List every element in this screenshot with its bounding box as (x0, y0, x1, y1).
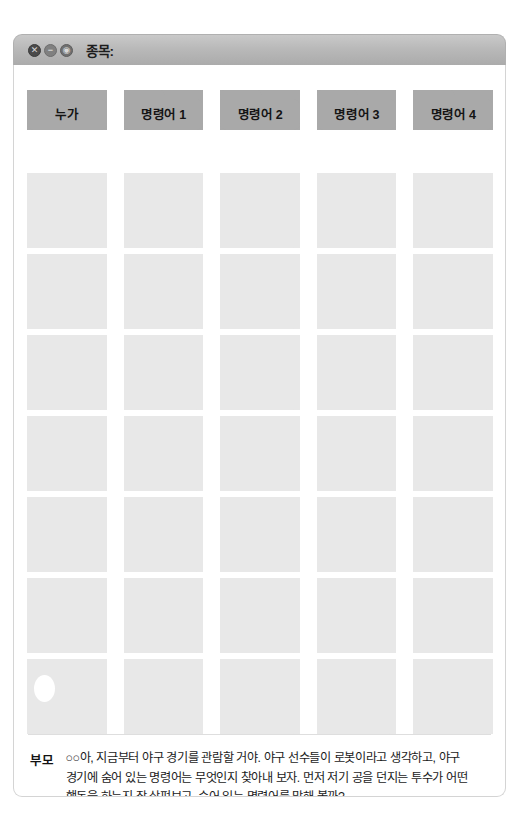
caption-speaker-label: 부모 (30, 749, 54, 769)
folder-grid-row (27, 497, 493, 572)
folder-cell[interactable] (413, 659, 493, 734)
folder-cell[interactable] (413, 335, 493, 410)
folder-body-shape (413, 346, 493, 410)
folder-cell[interactable] (413, 416, 493, 491)
folder-cell[interactable] (413, 497, 493, 572)
folder-grid-row (27, 578, 493, 653)
folder-cell[interactable] (413, 578, 493, 653)
folder-body-shape (317, 427, 397, 491)
folder-body-shape (413, 265, 493, 329)
folder-body-shape (124, 265, 204, 329)
folder-cell[interactable] (27, 416, 107, 491)
column-header-label: 누가 (27, 104, 107, 123)
folder-cell[interactable] (220, 416, 300, 491)
folder-cell[interactable] (317, 659, 397, 734)
column-header-label: 명령어 3 (317, 104, 397, 123)
folder-body-shape (124, 670, 204, 734)
folder-cell[interactable] (27, 173, 107, 248)
folder-body-shape (220, 346, 300, 410)
folder-grid-row (27, 659, 493, 734)
folder-cell[interactable] (27, 335, 107, 410)
folder-body-shape (317, 589, 397, 653)
folder-cell[interactable] (124, 416, 204, 491)
folder-cell[interactable] (124, 173, 204, 248)
column-header-command-1[interactable]: 명령어 1 (124, 90, 204, 130)
folder-cell[interactable] (220, 578, 300, 653)
folder-body-shape (317, 346, 397, 410)
folder-grid-row (27, 416, 493, 491)
caption-block: 부모 ○○아, 지금부터 야구 경기를 관람할 거야. 야구 선수들이 로봇이라… (30, 749, 491, 797)
folder-cell[interactable] (413, 254, 493, 329)
column-header-command-3[interactable]: 명령어 3 (317, 90, 397, 130)
folder-body-shape (27, 508, 107, 572)
folder-cell[interactable] (27, 254, 107, 329)
folder-cell[interactable] (124, 497, 204, 572)
folder-cell[interactable] (124, 659, 204, 734)
folder-body-shape (413, 508, 493, 572)
folder-body-shape (220, 508, 300, 572)
folder-body-shape (27, 346, 107, 410)
folder-cell[interactable] (317, 335, 397, 410)
folder-cell[interactable] (220, 497, 300, 572)
folder-body-shape (124, 346, 204, 410)
folder-body-shape (220, 184, 300, 248)
folder-cell[interactable] (124, 578, 204, 653)
folder-body-shape (220, 427, 300, 491)
maximize-icon[interactable]: ◉ (60, 44, 73, 57)
folder-cell[interactable] (27, 578, 107, 653)
window-title: 종목: (86, 40, 114, 60)
app-window: ✕ − ◉ 종목: 누가 명령어 1 (13, 34, 506, 797)
folder-body-shape (413, 670, 493, 734)
folder-body-shape (220, 670, 300, 734)
folder-cell[interactable] (27, 659, 107, 734)
folder-body-shape (413, 184, 493, 248)
folder-grid-row (27, 335, 493, 410)
folder-body-shape (124, 508, 204, 572)
folder-body-shape (317, 265, 397, 329)
folder-cell[interactable] (124, 254, 204, 329)
folder-grid-row (27, 254, 493, 329)
folder-body-shape (124, 589, 204, 653)
folder-cell[interactable] (220, 173, 300, 248)
folder-body-shape (27, 427, 107, 491)
folder-cell[interactable] (220, 659, 300, 734)
folder-cell[interactable] (317, 578, 397, 653)
folder-body-shape (220, 265, 300, 329)
folder-body-shape (27, 589, 107, 653)
folder-body-shape (124, 184, 204, 248)
folder-grid-row (27, 173, 493, 248)
folder-body-shape (317, 184, 397, 248)
column-header-label: 명령어 2 (220, 104, 300, 123)
screenshot-root: ✕ − ◉ 종목: 누가 명령어 1 (0, 0, 519, 822)
folder-cell[interactable] (317, 173, 397, 248)
folder-body-shape (220, 589, 300, 653)
column-header-command-2[interactable]: 명령어 2 (220, 90, 300, 130)
folder-cell[interactable] (27, 497, 107, 572)
folder-body-shape (413, 427, 493, 491)
folder-cell[interactable] (317, 497, 397, 572)
folder-cell[interactable] (220, 335, 300, 410)
column-header-label: 명령어 1 (124, 104, 204, 123)
minimize-icon[interactable]: − (44, 44, 57, 57)
folder-body-shape (317, 670, 397, 734)
folder-body-shape (317, 508, 397, 572)
column-header-command-4[interactable]: 명령어 4 (413, 90, 493, 130)
column-header-row: 누가 명령어 1 명령어 2 명령어 3 (27, 90, 493, 130)
folder-cell[interactable] (317, 254, 397, 329)
folder-body-shape (27, 184, 107, 248)
caption-body-text: ○○아, 지금부터 야구 경기를 관람할 거야. 야구 선수들이 로봇이라고 생… (66, 749, 491, 797)
folder-cell[interactable] (124, 335, 204, 410)
column-header-who[interactable]: 누가 (27, 90, 107, 130)
window-titlebar[interactable]: ✕ − ◉ 종목: (13, 34, 506, 65)
highlight-marker-icon (34, 675, 55, 702)
window-controls: ✕ − ◉ (28, 44, 73, 57)
column-header-label: 명령어 4 (413, 104, 493, 123)
folder-cell[interactable] (317, 416, 397, 491)
folder-grid (27, 173, 493, 740)
folder-body-shape (27, 265, 107, 329)
folder-body-shape (413, 589, 493, 653)
close-icon[interactable]: ✕ (28, 44, 41, 57)
caption-divider (28, 734, 491, 735)
folder-cell[interactable] (220, 254, 300, 329)
folder-cell[interactable] (413, 173, 493, 248)
